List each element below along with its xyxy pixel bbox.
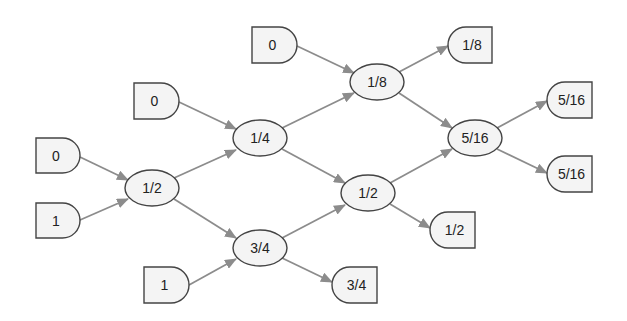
edge-op_eighth-to-op_five_sixteenths bbox=[399, 93, 452, 128]
output-node-label: 5/16 bbox=[558, 92, 585, 108]
edge-op_quarter-to-op_eighth bbox=[282, 93, 354, 128]
input-node-label: 0 bbox=[52, 148, 60, 164]
input-node-label: 0 bbox=[269, 37, 277, 53]
operation-node: 3/4 bbox=[233, 230, 287, 266]
input-node: 1 bbox=[36, 203, 80, 238]
output-node-label: 3/4 bbox=[347, 277, 367, 293]
input-node-label: 0 bbox=[151, 93, 159, 109]
operation-node-label: 1/2 bbox=[358, 185, 378, 201]
operation-node: 1/2 bbox=[125, 170, 179, 206]
input-node-label: 1 bbox=[52, 213, 60, 229]
output-node: 1/2 bbox=[430, 212, 475, 248]
output-node-label: 1/8 bbox=[462, 37, 482, 53]
operation-node: 1/4 bbox=[233, 120, 287, 156]
output-node: 5/16 bbox=[547, 82, 592, 118]
edge-op_half_2-to-out_half bbox=[390, 204, 430, 228]
operation-node-label: 1/2 bbox=[142, 180, 162, 196]
edge-in_b-to-op_half_1 bbox=[80, 199, 128, 220]
operation-node-label: 3/4 bbox=[250, 240, 270, 256]
edge-op_five_sixteenths-to-out_five_sixteenths_b bbox=[497, 149, 547, 173]
input-node: 0 bbox=[252, 27, 297, 63]
output-node-label: 5/16 bbox=[558, 166, 585, 182]
operation-node-label: 1/4 bbox=[250, 130, 270, 146]
edge-op_three_quarters-to-out_three_quarters bbox=[282, 258, 332, 282]
input-node-label: 1 bbox=[161, 277, 169, 293]
output-node: 1/8 bbox=[448, 27, 492, 63]
edges-layer bbox=[80, 46, 547, 285]
edge-op_half_1-to-op_three_quarters bbox=[174, 199, 236, 238]
operation-node: 1/2 bbox=[341, 175, 395, 211]
edge-op_eighth-to-out_eighth bbox=[399, 46, 448, 72]
edge-in_a-to-op_half_1 bbox=[80, 157, 128, 180]
input-node: 0 bbox=[134, 83, 179, 119]
operation-node-label: 1/8 bbox=[367, 74, 387, 90]
operation-node-label: 5/16 bbox=[461, 130, 488, 146]
edge-op_half_2-to-op_five_sixteenths bbox=[390, 149, 452, 183]
edge-op_five_sixteenths-to-out_five_sixteenths_a bbox=[497, 101, 547, 128]
edge-op_half_1-to-op_quarter bbox=[174, 150, 236, 178]
edge-op_quarter-to-op_half_2 bbox=[282, 149, 345, 183]
edge-in_d-to-op_three_quarters bbox=[189, 259, 236, 285]
input-node: 1 bbox=[144, 267, 189, 303]
edge-in_c-to-op_quarter bbox=[179, 102, 236, 129]
output-node: 5/16 bbox=[547, 156, 592, 192]
edge-op_three_quarters-to-op_half_2 bbox=[282, 205, 345, 238]
output-node-label: 1/2 bbox=[445, 222, 465, 238]
edge-in_e-to-op_eighth bbox=[297, 46, 354, 73]
operation-node: 1/8 bbox=[350, 64, 404, 100]
operation-node: 5/16 bbox=[448, 120, 502, 156]
dataflow-diagram: 01010 1/21/43/41/81/25/16 1/85/165/161/2… bbox=[0, 0, 627, 321]
output-node: 3/4 bbox=[332, 267, 377, 303]
input-node: 0 bbox=[36, 138, 80, 173]
